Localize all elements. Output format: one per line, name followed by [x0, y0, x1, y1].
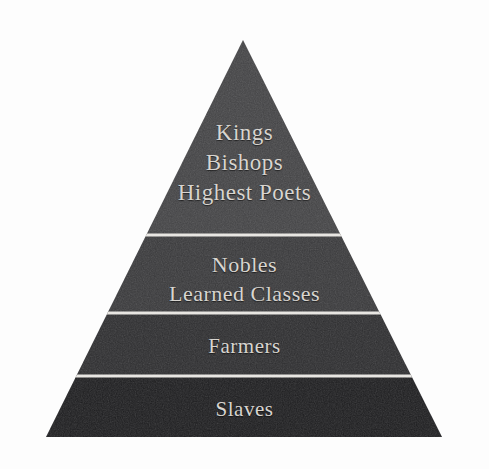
tier-label-line: Learned Classes: [0, 280, 489, 309]
tier-divider: [0, 375, 489, 378]
tier-label-upper-middle: Nobles Learned Classes: [0, 251, 489, 308]
tier-divider: [0, 234, 489, 237]
tier-label-bottom: Slaves: [0, 396, 489, 423]
tier-label-line: Bishops: [0, 148, 489, 178]
tier-label-line: Farmers: [0, 333, 489, 360]
tier-label-lower-middle: Farmers: [0, 333, 489, 360]
tier-divider: [0, 312, 489, 315]
tier-label-line: Nobles: [0, 251, 489, 280]
tier-label-line: Kings: [0, 118, 489, 148]
tier-label-line: Slaves: [0, 396, 489, 423]
tier-label-line: Highest Poets: [0, 178, 489, 208]
pyramid-diagram: Kings Bishops Highest Poets Nobles Learn…: [0, 0, 489, 469]
tier-label-top: Kings Bishops Highest Poets: [0, 118, 489, 208]
